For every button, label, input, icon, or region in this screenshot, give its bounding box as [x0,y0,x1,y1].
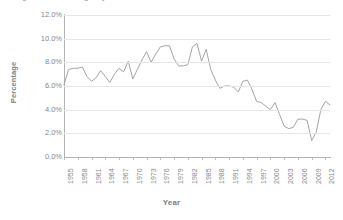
x-axis-tickmark [133,158,134,160]
x-axis-tickmark [160,158,161,160]
x-axis-tickmark [78,158,79,160]
x-axis-tick-label: 1991 [232,168,239,184]
x-axis-tick-label: 2000 [273,168,280,184]
x-axis-tick-label: 1955 [67,168,74,184]
x-axis-tickmark [188,158,189,160]
x-axis-tickmark [325,158,326,160]
x-axis-title: Year [0,198,343,207]
gridline [64,133,330,134]
x-axis-tickmark [119,158,120,160]
x-axis-tick-label: 1973 [150,168,157,184]
x-axis-tick-label: 2009 [315,168,322,184]
y-axis-tick-label: 0.0% [10,153,62,161]
x-axis-tickmark [202,158,203,160]
y-axis-tick-label: 10.0% [10,35,62,43]
x-axis-tickmark [174,158,175,160]
y-axis-tick-labels: 12.0%10.0%8.0%6.0%4.0%2.0%0.0% [10,0,62,170]
x-axis-tick-label: 2006 [301,168,308,184]
x-axis-tick-label: 1958 [81,168,88,184]
x-axis-tickmark [92,158,93,160]
x-axis-tick-label: 1994 [246,168,253,184]
x-axis-tick-label: 1997 [260,168,267,184]
plot-area [64,15,330,157]
x-axis-tick-label: 1970 [136,168,143,184]
x-axis-tickmark [229,158,230,160]
x-axis-tick-label: 1979 [177,168,184,184]
x-axis-tickmark [284,158,285,160]
x-axis-tickmark [105,158,106,160]
line-chart: Figure: Percentage by Year Percentage 12… [0,0,343,220]
x-axis-tickmark [243,158,244,160]
x-axis-tick-label: 1964 [108,168,115,184]
y-axis-tick-label: 8.0% [10,58,62,66]
x-axis-tickmark [147,158,148,160]
y-axis-tick-label: 2.0% [10,129,62,137]
x-axis-tick-label: 1967 [122,168,129,184]
gridline [64,15,330,16]
x-axis-tickmark [312,158,313,160]
x-axis-tickmark [270,158,271,160]
x-axis-tickmark [257,158,258,160]
x-axis-tick-labels: 1955195819611964196719701973197619791982… [64,158,331,192]
x-axis-tick-label: 1985 [205,168,212,184]
x-axis-tickmark [215,158,216,160]
chart-title: Figure: Percentage by Year [14,0,334,3]
x-axis-tickmark [64,158,65,160]
x-axis-tick-label: 2012 [328,168,335,184]
x-axis-tick-label: 1976 [163,168,170,184]
y-axis-tick-label: 12.0% [10,11,62,19]
x-axis-tick-label: 1961 [95,168,102,184]
gridline [64,86,330,87]
x-axis-tick-label: 1982 [191,168,198,184]
gridline [64,62,330,63]
x-axis-tick-label: 1988 [218,168,225,184]
gridline [64,39,330,40]
x-axis-tick-label: 2003 [287,168,294,184]
y-axis-tick-label: 6.0% [10,82,62,90]
x-axis-tickmark [298,158,299,160]
gridline [64,110,330,111]
y-axis-tick-label: 4.0% [10,106,62,114]
